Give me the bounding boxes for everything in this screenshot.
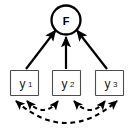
latent-factor-node-F: F (52, 6, 81, 35)
loading-arrow-y1 (26, 31, 56, 70)
correlation-arc-y1-y2 (27, 101, 58, 110)
indicator-node-y3: y 3 (96, 71, 124, 96)
sem-path-diagram: F y 1 y 2 y 3 (0, 0, 133, 138)
indicator-node-y2: y 2 (53, 71, 81, 96)
factor-label: F (63, 15, 70, 27)
loading-path-y3-to-factor (77, 31, 107, 70)
correlation-path-y2-y3 (74, 101, 105, 110)
indicator-label-y2: y (62, 77, 68, 91)
indicator-label-y1: y (20, 77, 26, 91)
loading-arrow-y3 (77, 31, 107, 70)
indicator-label-y3: y (105, 77, 111, 91)
indicator-subscript-y2: 2 (70, 80, 75, 89)
indicator-subscript-y1: 1 (28, 80, 33, 89)
loading-path-y1-to-factor (26, 31, 56, 70)
correlation-arc-y2-y3 (74, 101, 105, 110)
indicator-subscript-y3: 3 (113, 80, 118, 89)
diagram-canvas: F y 1 y 2 y 3 (0, 0, 133, 138)
indicator-node-y1: y 1 (11, 71, 39, 96)
correlation-path-y1-y2 (27, 101, 58, 110)
